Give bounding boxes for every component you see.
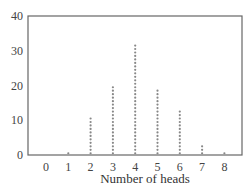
data-dot [112, 121, 114, 123]
data-dot [112, 117, 114, 119]
data-dot [112, 90, 114, 92]
data-dot [134, 149, 136, 151]
data-dot [134, 100, 136, 102]
data-dot [112, 104, 114, 106]
data-dot [134, 110, 136, 112]
data-dot [156, 90, 158, 92]
data-dot [112, 86, 114, 88]
data-dot [156, 145, 158, 147]
data-dot [156, 97, 158, 99]
data-dot [156, 117, 158, 119]
data-dot [156, 128, 158, 130]
data-dot [156, 104, 158, 106]
data-dot [112, 138, 114, 140]
data-dot [134, 51, 136, 53]
plot-border [28, 16, 242, 155]
data-dot [90, 117, 92, 119]
y-axis-ticks: 010203040 [11, 9, 23, 162]
data-dot [112, 152, 114, 154]
y-tick-label: 30 [11, 44, 23, 58]
data-dot [179, 138, 181, 140]
data-dot [112, 145, 114, 147]
data-dot [134, 121, 136, 123]
y-tick-label: 0 [17, 148, 23, 162]
x-tick-label: 1 [65, 160, 71, 174]
data-dot [90, 152, 92, 154]
dot-plot-chart: 010203040 012345678 Number of heads [0, 0, 251, 192]
data-dot [179, 128, 181, 130]
data-dot [156, 152, 158, 154]
data-dot [90, 128, 92, 130]
plot-frame [28, 16, 242, 155]
y-tick-label: 10 [11, 113, 23, 127]
y-tick-label: 40 [11, 9, 23, 23]
data-dot [156, 142, 158, 144]
data-dot [112, 114, 114, 116]
data-dot [134, 114, 136, 116]
data-dot [134, 86, 136, 88]
data-dot [179, 145, 181, 147]
data-dot [90, 131, 92, 133]
x-tick-label: 0 [43, 160, 49, 174]
data-dot [156, 124, 158, 126]
data-dot [134, 142, 136, 144]
data-dot [112, 124, 114, 126]
data-dot [156, 131, 158, 133]
data-dot [134, 117, 136, 119]
data-dot [134, 90, 136, 92]
data-dot [179, 114, 181, 116]
data-dot [112, 100, 114, 102]
data-dot [134, 79, 136, 81]
data-dot [90, 135, 92, 137]
data-dot [67, 152, 69, 154]
data-dot [156, 135, 158, 137]
data-dot [90, 121, 92, 123]
data-dot [90, 138, 92, 140]
data-dot [112, 149, 114, 151]
x-axis-label: Number of heads [100, 171, 190, 186]
data-dot [156, 93, 158, 95]
data-dot [112, 97, 114, 99]
data-dot [90, 145, 92, 147]
data-dot [201, 149, 203, 151]
data-dot [112, 110, 114, 112]
data-dot [156, 100, 158, 102]
data-dot [134, 107, 136, 109]
data-dot [179, 152, 181, 154]
data-dot [134, 62, 136, 64]
data-dot [179, 149, 181, 151]
data-dot [112, 131, 114, 133]
data-dot [134, 76, 136, 78]
data-dot [112, 93, 114, 95]
data-dot [134, 83, 136, 85]
data-dot [179, 121, 181, 123]
data-dot [134, 58, 136, 60]
data-dot [179, 124, 181, 126]
data-dot [134, 69, 136, 71]
data-dot [134, 48, 136, 50]
data-dot [179, 110, 181, 112]
data-dot [134, 93, 136, 95]
data-dot [179, 142, 181, 144]
data-dot [134, 97, 136, 99]
data-dot [134, 55, 136, 57]
data-dot [90, 124, 92, 126]
data-dot [112, 135, 114, 137]
data-dot [134, 138, 136, 140]
data-dot [134, 44, 136, 46]
data-dot [112, 142, 114, 144]
data-dot [156, 149, 158, 151]
data-dot [134, 128, 136, 130]
data-dot [179, 117, 181, 119]
data-dot [134, 145, 136, 147]
data-dot [156, 107, 158, 109]
data-dot [112, 128, 114, 130]
data-dots [67, 44, 225, 154]
data-dot [134, 131, 136, 133]
x-tick-label: 7 [199, 160, 205, 174]
data-dot [201, 152, 203, 154]
data-dot [179, 135, 181, 137]
x-tick-label: 2 [88, 160, 94, 174]
data-dot [223, 152, 225, 154]
data-dot [201, 145, 203, 147]
